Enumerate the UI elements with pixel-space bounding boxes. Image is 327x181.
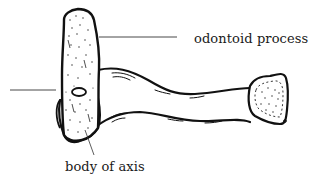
spinous-process bbox=[249, 74, 288, 124]
odontoid-process-label: odontoid process bbox=[194, 31, 308, 46]
foramen bbox=[72, 88, 86, 96]
axis-vertebra-diagram bbox=[0, 0, 327, 181]
odontoid-process bbox=[62, 9, 99, 141]
body-of-axis-label: body of axis bbox=[65, 159, 145, 174]
vertebral-arch bbox=[97, 68, 250, 126]
